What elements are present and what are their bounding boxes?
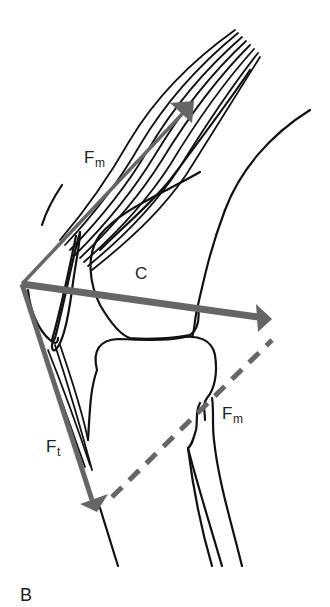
compression-force-arrowhead <box>256 304 272 332</box>
label-compression-force: C <box>135 264 147 283</box>
knee-force-diagram: F m C F t F m B <box>0 0 330 607</box>
svg-text:t: t <box>57 445 61 459</box>
label-muscle-force-upper: F m <box>84 148 105 170</box>
svg-text:m: m <box>233 412 243 426</box>
compression-force-vector <box>22 284 258 317</box>
svg-text:F: F <box>84 148 94 167</box>
svg-text:m: m <box>95 156 105 170</box>
label-muscle-force-lower: F m <box>222 404 243 426</box>
femur-condyle-outline <box>91 172 200 339</box>
muscle-force-vector-upper <box>22 112 184 284</box>
patella-front-outline <box>42 185 62 225</box>
svg-text:F: F <box>46 437 56 456</box>
label-tendon-force: F t <box>46 437 61 459</box>
tendon-force-arrowhead <box>80 494 108 512</box>
tibia-shaft-line <box>100 508 118 566</box>
svg-text:F: F <box>222 404 232 423</box>
fibula-outer-line <box>188 403 212 566</box>
tibia-posterior-outline <box>88 370 97 440</box>
femur-anterior-outline <box>192 110 310 337</box>
tendon-force-vector <box>22 284 92 500</box>
panel-label: B <box>20 585 32 605</box>
